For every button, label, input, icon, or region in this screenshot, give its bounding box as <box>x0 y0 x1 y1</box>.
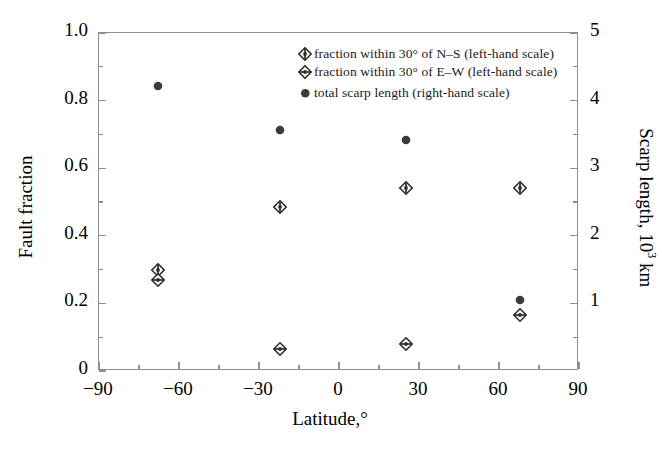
y-axis-right-title-main: Scarp length, 10 <box>636 128 657 252</box>
legend-item: fraction within 30° of N–S (left-hand sc… <box>296 46 557 62</box>
x-axis-minor-tick <box>538 365 539 369</box>
data-point-diamond-vertical-bar <box>273 200 287 214</box>
x-axis-tick <box>258 362 259 369</box>
x-axis-tick <box>338 362 339 369</box>
y-axis-left-tick-label: 0.4 <box>18 222 88 244</box>
y-axis-left-minor-tick <box>99 337 103 338</box>
y-axis-left-tick <box>99 32 106 33</box>
legend-marker-diamond-vertical-bar-icon <box>296 47 314 61</box>
chart-legend: fraction within 30° of N–S (left-hand sc… <box>296 46 557 103</box>
data-point-diamond-horizontal-bar <box>273 342 287 356</box>
y-axis-right-minor-tick <box>573 66 577 67</box>
y-axis-left-tick <box>99 370 106 371</box>
x-axis-minor-tick <box>138 365 139 369</box>
x-axis-tick-label: 30 <box>383 378 453 400</box>
legend-label: fraction within 30° of E–W (left-hand sc… <box>314 64 557 80</box>
x-axis-tick <box>498 362 499 369</box>
y-axis-left-tick <box>99 168 106 169</box>
y-axis-left-tick <box>99 100 106 101</box>
y-axis-right-tick <box>570 235 577 236</box>
legend-item: total scarp length (right-hand scale) <box>296 85 557 101</box>
y-axis-left-minor-tick <box>99 201 103 202</box>
y-axis-right-minor-tick <box>573 269 577 270</box>
y-axis-right-tick-label: 3 <box>590 154 630 176</box>
x-axis-minor-tick <box>298 365 299 369</box>
y-axis-right-minor-tick <box>573 134 577 135</box>
x-axis-minor-tick <box>218 365 219 369</box>
y-axis-right-minor-tick <box>573 337 577 338</box>
y-axis-left-minor-tick <box>99 134 103 135</box>
y-axis-right-tick-label: 1 <box>590 289 630 311</box>
legend-label: total scarp length (right-hand scale) <box>314 85 510 101</box>
y-axis-right-tick <box>570 32 577 33</box>
y-axis-left-minor-tick <box>99 66 103 67</box>
data-point-diamond-horizontal-bar <box>151 273 165 287</box>
legend-marker-diamond-horizontal-bar-icon <box>296 65 314 79</box>
y-axis-left-tick-label: 0.6 <box>18 154 88 176</box>
y-axis-left-minor-tick <box>99 269 103 270</box>
y-axis-left-tick-label: 1.0 <box>18 19 88 41</box>
y-axis-left-tick-label: 0.2 <box>18 289 88 311</box>
data-point-diamond-horizontal-bar <box>513 308 527 322</box>
figure-container: Fault fraction Scarp length, 103 km Lati… <box>0 0 662 451</box>
y-axis-left-tick <box>99 303 106 304</box>
data-point-diamond-horizontal-bar <box>399 337 413 351</box>
data-point-filled-circle <box>400 135 411 146</box>
legend-marker-filled-circle-icon <box>296 88 314 99</box>
x-axis-tick <box>578 362 579 369</box>
y-axis-right-title: Scarp length, 103 km <box>635 103 658 313</box>
y-axis-right-tick-label: 2 <box>590 222 630 244</box>
data-point-filled-circle <box>275 124 286 135</box>
y-axis-right-tick <box>570 168 577 169</box>
x-axis-tick-label: 0 <box>303 378 373 400</box>
data-point-filled-circle <box>515 295 526 306</box>
y-axis-right-tick-label: 4 <box>590 87 630 109</box>
x-axis-tick <box>418 362 419 369</box>
data-point-filled-circle <box>152 80 163 91</box>
y-axis-right-tick <box>570 303 577 304</box>
y-axis-left-tick-label: 0.8 <box>18 87 88 109</box>
y-axis-left-tick-label: 0 <box>18 357 88 379</box>
x-axis-tick-label: −90 <box>63 378 133 400</box>
x-axis-tick <box>178 362 179 369</box>
x-axis-minor-tick <box>458 365 459 369</box>
data-point-diamond-vertical-bar <box>513 181 527 195</box>
legend-label: fraction within 30° of N–S (left-hand sc… <box>314 46 554 62</box>
y-axis-right-title-unit: km <box>636 258 657 287</box>
data-point-diamond-vertical-bar <box>399 181 413 195</box>
x-axis-tick <box>98 362 99 369</box>
x-axis-title: Latitude,° <box>230 408 430 430</box>
x-axis-tick-label: 60 <box>463 378 533 400</box>
y-axis-right-minor-tick <box>573 201 577 202</box>
y-axis-left-tick <box>99 235 106 236</box>
x-axis-tick-label: 90 <box>543 378 613 400</box>
y-axis-right-tick-label: 5 <box>590 19 630 41</box>
x-axis-tick-label: −60 <box>143 378 213 400</box>
legend-item: fraction within 30° of E–W (left-hand sc… <box>296 64 557 80</box>
x-axis-tick-label: −30 <box>223 378 293 400</box>
y-axis-right-tick <box>570 100 577 101</box>
x-axis-minor-tick <box>378 365 379 369</box>
y-axis-left-title: Fault fraction <box>15 127 37 287</box>
